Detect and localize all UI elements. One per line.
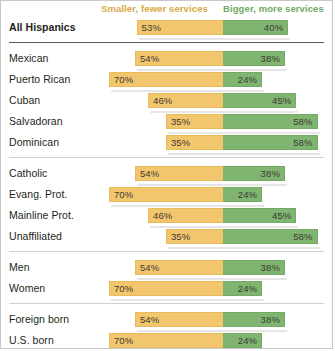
legend-label-smaller: Smaller, fewer services [101,3,208,15]
bar-value-left: 46% [153,210,172,221]
bar-value-left: 35% [171,116,190,127]
diverging-bar-chart: Smaller, fewer services Bigger, more ser… [0,0,333,349]
bar-track: 70%24% [1,281,332,296]
bar-bigger-services: 45% [223,93,296,108]
bar-bigger-services: 45% [223,208,296,223]
bar-value-left: 70% [114,283,133,294]
bar-value-right: 24% [238,74,257,85]
chart-row: Unaffiliated35%58% [1,226,332,247]
bar-smaller-services: 70% [109,333,223,348]
bar-smaller-services: 70% [109,72,223,87]
bar-value-right: 38% [261,168,280,179]
bar-value-right: 58% [293,231,312,242]
bar-track: 46%45% [1,93,332,108]
bar-smaller-services: 54% [135,166,223,181]
chart-row: Women70%24% [1,278,332,299]
bar-shadow [168,153,320,155]
chart-row: Foreign born54%38% [1,309,332,330]
bar-value-left: 70% [114,74,133,85]
bar-bigger-services: 58% [223,114,318,129]
bar-value-right: 58% [293,137,312,148]
chart-row: Dominican35%58% [1,132,332,153]
bar-value-right: 38% [261,314,280,325]
bar-value-right: 38% [261,262,280,273]
bar-value-right: 24% [238,335,257,346]
bar-smaller-services: 35% [166,135,223,150]
bar-value-left: 35% [171,137,190,148]
bar-value-left: 35% [171,231,190,242]
bar-bigger-services: 40% [223,20,288,35]
bar-track: 35%58% [1,135,332,150]
bar-track: 54%38% [1,51,332,66]
section-divider [9,157,324,158]
bar-value-right: 24% [238,189,257,200]
bar-smaller-services: 54% [135,260,223,275]
bar-smaller-services: 46% [148,208,223,223]
chart-row: All Hispanics53%40% [1,17,332,38]
bar-bigger-services: 38% [223,260,285,275]
bar-bigger-services: 58% [223,229,318,244]
bar-value-left: 54% [140,314,159,325]
bar-shadow [139,38,291,40]
chart-row: Cuban46%45% [1,90,332,111]
chart-row: Salvadoran35%58% [1,111,332,132]
chart-rows: All Hispanics53%40%Mexican54%38%Puerto R… [1,17,332,349]
bar-smaller-services: 35% [166,229,223,244]
bar-value-left: 54% [140,168,159,179]
bar-value-right: 45% [272,210,291,221]
chart-row: Men54%38% [1,257,332,278]
chart-row: Evang. Prot.70%24% [1,184,332,205]
bar-bigger-services: 38% [223,51,285,66]
bar-track: 53%40% [1,20,332,35]
bar-track: 35%58% [1,114,332,129]
bar-smaller-services: 70% [109,281,223,296]
bar-bigger-services: 24% [223,187,262,202]
section-divider [9,251,324,252]
bar-track: 54%38% [1,260,332,275]
bar-smaller-services: 54% [135,312,223,327]
bar-track: 70%24% [1,187,332,202]
bar-value-left: 70% [114,189,133,200]
bar-bigger-services: 38% [223,312,285,327]
bar-value-right: 40% [264,22,283,33]
bar-value-right: 45% [272,95,291,106]
bar-bigger-services: 24% [223,72,262,87]
bar-smaller-services: 54% [135,51,223,66]
bar-track: 35%58% [1,229,332,244]
bar-bigger-services: 24% [223,281,262,296]
chart-row: U.S. born70%24% [1,330,332,349]
bar-track: 46%45% [1,208,332,223]
bar-value-left: 54% [140,262,159,273]
section-divider [9,42,324,43]
bar-value-left: 46% [153,95,172,106]
bar-bigger-services: 24% [223,333,262,348]
bar-smaller-services: 70% [109,187,223,202]
chart-row: Puerto Rican70%24% [1,69,332,90]
bar-smaller-services: 35% [166,114,223,129]
bar-track: 54%38% [1,166,332,181]
bar-track: 70%24% [1,333,332,348]
bar-value-right: 24% [238,283,257,294]
chart-row: Mexican54%38% [1,48,332,69]
bar-shadow [168,247,320,249]
bar-bigger-services: 58% [223,135,318,150]
chart-row: Mainline Prot.46%45% [1,205,332,226]
legend-label-bigger: Bigger, more services [223,3,324,15]
bar-shadow [111,299,264,301]
bar-value-right: 38% [261,53,280,64]
bar-value-right: 58% [293,116,312,127]
bar-bigger-services: 38% [223,166,285,181]
bar-value-left: 54% [140,53,159,64]
chart-row: Catholic54%38% [1,163,332,184]
bar-smaller-services: 46% [148,93,223,108]
section-divider [9,303,324,304]
bar-value-left: 53% [142,22,161,33]
bar-value-left: 70% [114,335,133,346]
bar-track: 70%24% [1,72,332,87]
bar-smaller-services: 53% [137,20,223,35]
bar-track: 54%38% [1,312,332,327]
